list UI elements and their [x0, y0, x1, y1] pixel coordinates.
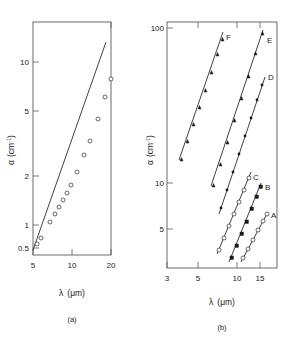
panel-b-label-D: D: [268, 73, 274, 82]
panel-a-fit-line: [33, 42, 106, 250]
panel-b-xticklabel-5: 5: [196, 274, 201, 283]
panel-a-yticklabel-10: 10: [20, 58, 29, 67]
panel-b-yticklabel-100: 100: [151, 24, 165, 33]
panel-b-xticklabel-10: 10: [233, 274, 242, 283]
panel-b: 100 10 5 3 5 10 15: [145, 0, 290, 343]
panel-b-xlabel: λ(μm): [209, 297, 235, 307]
panel-a-yticklabel-2: 2: [25, 172, 30, 181]
panel-b-yticklabel-5: 5: [160, 225, 165, 234]
svg-text:α(cm-1): α(cm-1): [145, 135, 155, 165]
panel-a-caption: (a): [67, 315, 77, 324]
panel-b-series-F: F: [179, 32, 231, 161]
panel-a-plot: 10 5 2 1 0.5 5 10 20: [0, 0, 145, 343]
panel-b-xticklabel-3: 3: [165, 274, 170, 283]
panel-b-label-A: A: [271, 211, 277, 220]
panel-b-series-E: E: [211, 30, 272, 187]
panel-a-xticklabel-20: 20: [107, 261, 116, 270]
panel-b-xticklabel-15: 15: [256, 274, 265, 283]
panel-b-label-F: F: [226, 33, 231, 42]
panel-b-label-E: E: [267, 36, 272, 45]
svg-text:α(cm-1): α(cm-1): [6, 135, 16, 165]
figure-container: 10 5 2 1 0.5 5 10 20: [0, 0, 290, 343]
panel-b-plot: 100 10 5 3 5 10 15: [145, 0, 290, 343]
panel-a-xticklabel-10: 10: [68, 261, 77, 270]
panel-b-label-C: C: [253, 173, 259, 182]
panel-b-caption: (b): [217, 323, 227, 332]
panel-a-ylabel: α(cm-1): [6, 135, 16, 165]
panel-b-ylabel: α(cm-1): [145, 135, 155, 165]
panel-a-datapoints: [35, 77, 113, 246]
panel-a-yticklabel-1: 1: [25, 221, 30, 230]
panel-b-label-B: B: [265, 183, 270, 192]
panel-b-frame: [167, 22, 277, 268]
panel-a: 10 5 2 1 0.5 5 10 20: [0, 0, 145, 343]
panel-a-xticklabel-5: 5: [31, 261, 36, 270]
panel-a-yticklabel-0p5: 0.5: [18, 244, 30, 253]
panel-a-xlabel: λ(μm): [59, 288, 85, 298]
panel-a-yticklabel-5: 5: [25, 107, 30, 116]
panel-b-yticklabel-10: 10: [155, 179, 164, 188]
